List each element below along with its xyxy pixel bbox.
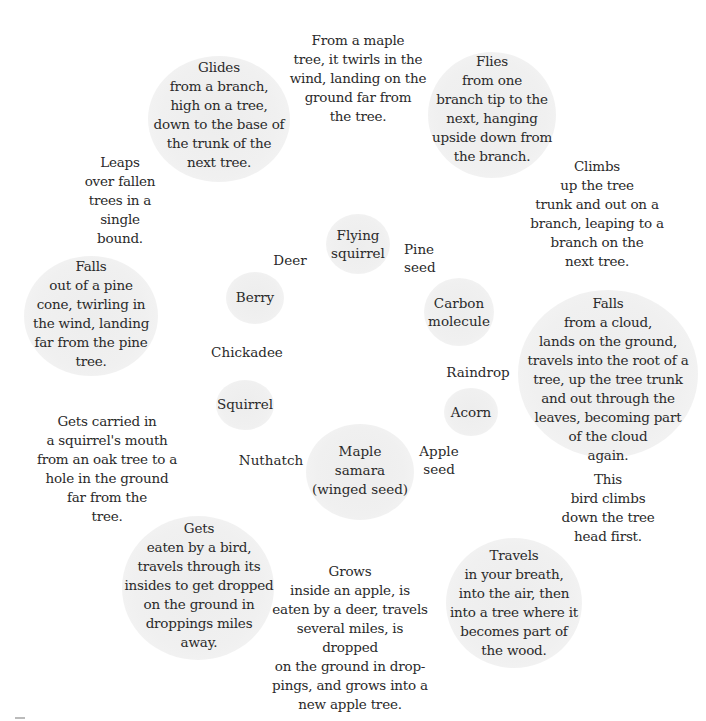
maple-samara-label: Maple samara (winged seed) — [306, 442, 414, 499]
apple-seed-label: Apple seed — [414, 442, 464, 478]
nuthatch-label: Nuthatch — [236, 451, 306, 469]
climbs-up-description: Climbs up the tree trunk and out on a br… — [528, 157, 666, 271]
maple-twirls-description: From a maple tree, it twirls in the wind… — [288, 31, 428, 126]
raindrop-label: Raindrop — [446, 363, 510, 381]
flying-squirrel-label: Flying squirrel — [320, 226, 396, 262]
flies-description: Flies from one branch tip to the next, h… — [428, 52, 556, 166]
squirrel-label: Squirrel — [212, 395, 278, 413]
pine-seed-label: Pine seed — [404, 240, 444, 276]
travels-breath-description: Travels in your breath, into the air, th… — [446, 546, 582, 660]
falls-cloud-description: Falls from a cloud, lands on the ground,… — [510, 294, 706, 465]
deer-label: Deer — [268, 251, 312, 269]
acorn-label: Acorn — [440, 403, 502, 421]
falls-pine-description: Falls out of a pine cone, twirling in th… — [24, 257, 158, 371]
berry-label: Berry — [226, 288, 284, 306]
bird-climbs-down-description: This bird climbs down the tree head firs… — [558, 470, 658, 546]
grows-apple-description: Grows inside an apple, is eaten by a dee… — [272, 562, 428, 714]
carried-squirrel-description: Gets carried in a squirrel's mouth from … — [30, 412, 184, 526]
leaps-description: Leaps over fallen trees in a single boun… — [68, 153, 172, 248]
eaten-bird-description: Gets eaten by a bird, travels through it… — [122, 519, 276, 652]
chickadee-label: Chickadee — [210, 343, 284, 361]
carbon-molecule-label: Carbon molecule — [420, 294, 498, 330]
page-mark — [15, 717, 25, 719]
